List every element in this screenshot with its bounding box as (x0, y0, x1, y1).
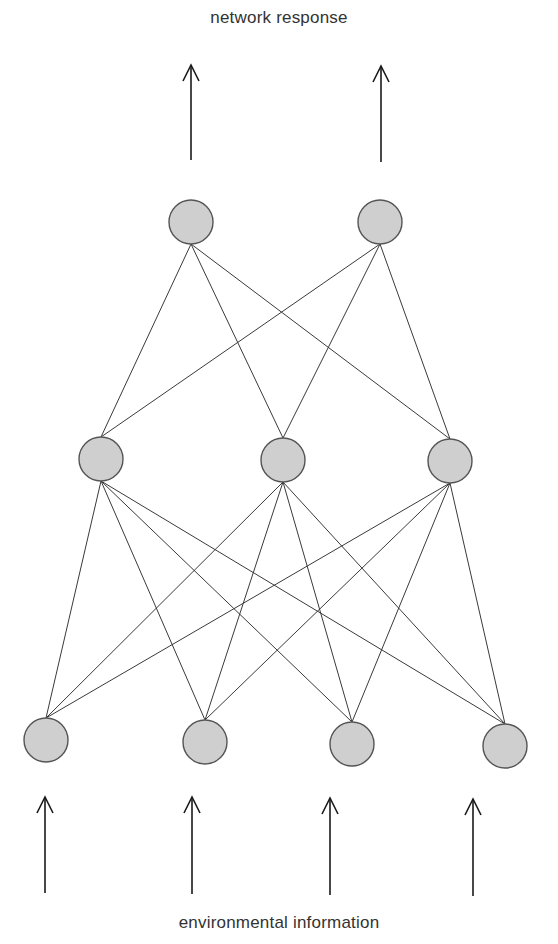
edge-o2-h1 (101, 244, 380, 437)
edge-o1-h2 (191, 244, 283, 438)
network-graph (0, 0, 558, 944)
input-node-i4 (483, 724, 527, 768)
output-node-o2 (358, 200, 402, 244)
neuron-nodes (24, 200, 527, 768)
hidden-node-h1 (79, 437, 123, 481)
hidden-node-h2 (261, 438, 305, 482)
edge-o1-h3 (191, 244, 450, 439)
edge-h3-i1 (46, 483, 450, 718)
output-node-o1 (169, 200, 213, 244)
edge-h2-i1 (46, 482, 283, 718)
input-node-i1 (24, 718, 68, 762)
input-node-i2 (183, 720, 227, 764)
edge-h2-i3 (283, 482, 352, 722)
edge-h3-i4 (450, 483, 505, 724)
hidden-node-h3 (428, 439, 472, 483)
edge-h3-i2 (205, 483, 450, 720)
edge-h1-i2 (101, 481, 205, 720)
edge-o1-h1 (101, 244, 191, 437)
edge-h2-i2 (205, 482, 283, 720)
edge-h1-i1 (46, 481, 101, 718)
edge-o2-h3 (380, 244, 450, 439)
connection-edges (46, 244, 505, 724)
environmental-information-label: environmental information (0, 913, 558, 933)
edge-h3-i3 (352, 483, 450, 722)
neural-network-diagram: network response environmental informati… (0, 0, 558, 944)
edge-h1-i3 (101, 481, 352, 722)
edge-o2-h2 (283, 244, 380, 438)
input-node-i3 (330, 722, 374, 766)
